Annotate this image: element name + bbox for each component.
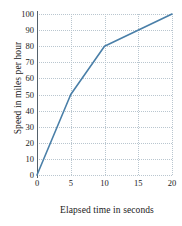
gridline-vertical <box>172 14 173 175</box>
y-tick-label: 30 <box>4 122 34 132</box>
y-tick-label: 40 <box>4 106 34 116</box>
chart-figure: Speed in miles per hour Elapsed time in … <box>0 0 182 226</box>
y-tick-label: 70 <box>4 57 34 67</box>
x-tick-label: 5 <box>59 178 83 188</box>
x-tick-label: 20 <box>160 178 182 188</box>
x-tick-label: 10 <box>93 178 117 188</box>
y-tick-label: 10 <box>4 154 34 164</box>
y-tick-label: 90 <box>4 25 34 35</box>
y-tick-label: 60 <box>4 73 34 83</box>
x-axis-label: Elapsed time in seconds <box>37 205 177 215</box>
y-axis-tick-labels: 0102030405060708090100 <box>0 14 34 175</box>
plot-area <box>37 14 172 175</box>
x-tick-label: 15 <box>126 178 150 188</box>
y-tick-label: 80 <box>4 41 34 51</box>
x-axis-tick-labels: 05101520 <box>37 178 172 192</box>
x-tick-label: 0 <box>25 178 49 188</box>
data-line-series <box>37 14 172 175</box>
gridline-horizontal <box>37 175 172 176</box>
y-tick-label: 20 <box>4 138 34 148</box>
y-tick-label: 100 <box>4 9 34 19</box>
y-tick-label: 50 <box>4 90 34 100</box>
